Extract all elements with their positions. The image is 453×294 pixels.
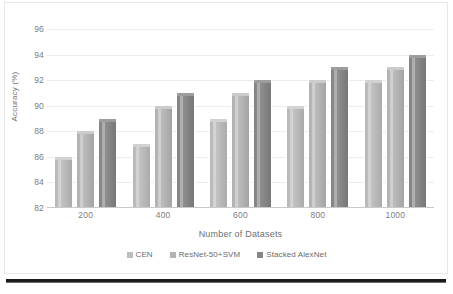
bar[interactable]	[386, 66, 405, 207]
bar-groups	[47, 29, 434, 207]
x-axis-title: Number of Datasets	[47, 229, 434, 239]
chart-legend: CENResNet-50+SVMStacked AlexNet	[0, 250, 453, 259]
y-axis-tick-label: 90	[4, 101, 44, 111]
bar[interactable]	[253, 79, 272, 207]
x-axis-tick-label: 1000	[357, 210, 434, 220]
bar-group	[124, 29, 201, 207]
bar[interactable]	[364, 79, 383, 207]
bar[interactable]	[209, 118, 228, 208]
legend-label: CEN	[136, 250, 153, 259]
bar[interactable]	[54, 156, 73, 207]
bar-group	[279, 29, 356, 207]
bar[interactable]	[308, 79, 327, 207]
legend-swatch-icon	[127, 252, 133, 258]
bar-highlight	[102, 122, 105, 208]
x-axis-tick-label: 600	[202, 210, 279, 220]
bar[interactable]	[408, 54, 427, 207]
y-axis-tick-label: 82	[4, 203, 44, 213]
bar[interactable]	[154, 105, 173, 207]
bar-highlight	[158, 109, 161, 207]
legend-item[interactable]: CEN	[127, 250, 153, 259]
bar-highlight	[290, 109, 293, 207]
plot-area	[47, 29, 434, 208]
legend-label: Stacked AlexNet	[266, 250, 326, 259]
y-axis-tick-label: 96	[4, 24, 44, 34]
bar[interactable]	[231, 92, 250, 207]
bar-group	[47, 29, 124, 207]
bar-highlight	[257, 83, 260, 207]
figure-container: Accuracy (%) 8284868890929496 2004006008…	[0, 0, 453, 294]
x-axis-tick-label: 200	[47, 210, 124, 220]
y-axis-tick-label: 92	[4, 75, 44, 85]
bar-highlight	[390, 70, 393, 207]
bar-highlight	[136, 147, 139, 207]
y-axis-tick-labels: 8284868890929496	[0, 29, 44, 208]
bar-highlight	[235, 96, 238, 207]
bar-highlight	[180, 96, 183, 207]
bar-highlight	[213, 122, 216, 208]
bar[interactable]	[330, 66, 349, 207]
y-axis-tick-label: 84	[4, 177, 44, 187]
bar[interactable]	[98, 118, 117, 208]
bar-highlight	[412, 58, 415, 207]
bar-highlight	[58, 160, 61, 207]
bar-group	[202, 29, 279, 207]
y-axis-tick-label: 86	[4, 152, 44, 162]
x-axis-tick-labels: 2004006008001000	[47, 210, 434, 220]
bar-highlight	[368, 83, 371, 207]
bottom-rule-shadow	[6, 282, 446, 283]
legend-swatch-icon	[170, 252, 176, 258]
bar-highlight	[334, 70, 337, 207]
legend-item[interactable]: ResNet-50+SVM	[170, 250, 241, 259]
y-axis-tick-label: 94	[4, 50, 44, 60]
x-axis-tick-label: 800	[279, 210, 356, 220]
bar[interactable]	[286, 105, 305, 207]
bar-group	[357, 29, 434, 207]
legend-swatch-icon	[257, 252, 263, 258]
bar[interactable]	[132, 143, 151, 207]
bar-highlight	[312, 83, 315, 207]
y-axis-tick-label: 88	[4, 126, 44, 136]
bar[interactable]	[176, 92, 195, 207]
bar[interactable]	[76, 130, 95, 207]
x-axis-tick-label: 400	[124, 210, 201, 220]
bar-highlight	[80, 134, 83, 207]
legend-item[interactable]: Stacked AlexNet	[257, 250, 326, 259]
legend-label: ResNet-50+SVM	[179, 250, 241, 259]
